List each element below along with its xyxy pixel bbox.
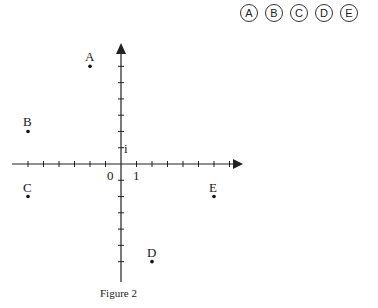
complex-plane-figure: 0 1 i ABCDE — [0, 0, 378, 308]
y-unit-label: i — [124, 141, 128, 156]
point-label-e: E — [209, 180, 217, 195]
point-e — [212, 195, 216, 199]
point-d — [150, 260, 154, 264]
point-label-d: D — [147, 245, 156, 260]
point-a — [88, 65, 92, 69]
point-label-a: A — [85, 49, 95, 64]
y-arrow-icon — [116, 43, 126, 54]
point-label-b: B — [23, 114, 32, 129]
point-label-c: C — [23, 180, 32, 195]
figure-caption: Figure 2 — [100, 287, 137, 299]
plotted-points: ABCDE — [23, 49, 217, 263]
x-arrow-icon — [233, 159, 243, 169]
point-c — [26, 195, 30, 199]
origin-label: 0 — [107, 168, 114, 183]
x-unit-label: 1 — [133, 168, 140, 183]
point-b — [26, 130, 30, 134]
